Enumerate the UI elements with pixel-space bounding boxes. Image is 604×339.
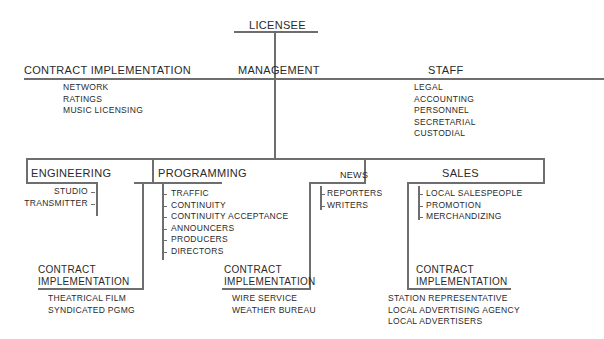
programming-list-line: [162, 184, 164, 260]
engineering-list-line: [96, 182, 98, 216]
list-item: WIRE SERVICE: [232, 293, 316, 305]
licensee-underline: [234, 31, 318, 33]
sales-contract-line: [407, 182, 409, 290]
management-line: [24, 78, 204, 80]
list-item: TRAFFIC: [171, 188, 288, 200]
staff-list: LEGAL ACCOUNTING PERSONNEL SECRETARIAL C…: [414, 82, 476, 140]
news-contract-line: [309, 182, 311, 290]
list-item: WRITERS: [327, 200, 382, 212]
tick: [163, 194, 167, 195]
list-item: LOCAL SALESPEOPLE: [426, 188, 522, 200]
programming-list: TRAFFIC CONTINUITY CONTINUITY ACCEPTANCE…: [171, 188, 288, 257]
tick: [163, 252, 167, 253]
sales-list: LOCAL SALESPEOPLE PROMOTION MERCHANDIZIN…: [426, 188, 522, 223]
engineering-left-edge: [26, 158, 28, 184]
list-item: THEATRICAL FILM: [48, 293, 135, 305]
sales-contract-title-line2: IMPLEMENTATION: [416, 277, 508, 287]
tick: [163, 229, 167, 230]
sales-title: SALES: [442, 168, 479, 179]
programming-contract-title-line2: IMPLEMENTATION: [38, 277, 130, 287]
tick: [91, 192, 95, 193]
list-item: MUSIC LICENSING: [63, 105, 143, 117]
list-item: MERCHANDIZING: [426, 211, 522, 223]
list-item: STATION REPRESENTATIVE: [388, 293, 520, 305]
tick: [419, 194, 423, 195]
list-item: LEGAL: [414, 82, 476, 94]
sales-contract-underline: [407, 288, 511, 290]
news-contract-title-line1: CONTRACT: [224, 265, 282, 275]
list-item: TRANSMITTER: [20, 198, 88, 210]
list-item: PROMOTION: [426, 200, 522, 212]
list-item: WEATHER BUREAU: [232, 305, 316, 317]
list-item: RATINGS: [63, 94, 143, 106]
list-item: CUSTODIAL: [414, 128, 476, 140]
list-item: SYNDICATED PGMG: [48, 305, 135, 317]
news-bottom: [309, 182, 366, 184]
programming-title: PROGRAMMING: [158, 168, 247, 179]
news-list: REPORTERS WRITERS: [327, 188, 382, 211]
tick: [163, 206, 167, 207]
list-item: PRODUCERS: [171, 234, 288, 246]
sales-bottom: [407, 182, 545, 184]
department-bus: [26, 158, 545, 160]
list-item: ACCOUNTING: [414, 94, 476, 106]
list-item: REPORTERS: [327, 188, 382, 200]
news-contract-underline: [222, 288, 311, 290]
news-contract-title-line2: IMPLEMENTATION: [224, 277, 316, 287]
management-line-right: [200, 78, 604, 80]
sales-list-line: [418, 186, 420, 220]
list-item: LOCAL ADVERTISING AGENCY: [388, 305, 520, 317]
management-title: MANAGEMENT: [238, 65, 320, 76]
list-item: DIRECTORS: [171, 246, 288, 258]
programming-contract-title-line1: CONTRACT: [38, 265, 96, 275]
engineering-title: ENGINEERING: [31, 168, 111, 179]
programming-contract-line: [142, 182, 144, 290]
list-item: LOCAL ADVERTISERS: [388, 316, 520, 328]
management-to-departments-connector: [274, 78, 276, 159]
tick: [419, 217, 423, 218]
management-contract-title: CONTRACT IMPLEMENTATION: [24, 65, 191, 76]
list-item: CONTINUITY: [171, 200, 288, 212]
tick: [321, 206, 325, 207]
engineering-bottom: [26, 182, 98, 184]
sales-right-edge: [543, 158, 545, 184]
sales-contract-list: STATION REPRESENTATIVE LOCAL ADVERTISING…: [388, 293, 520, 328]
tick: [321, 194, 325, 195]
tick: [163, 240, 167, 241]
staff-title: STAFF: [428, 65, 464, 76]
management-contract-list: NETWORK RATINGS MUSIC LICENSING: [63, 82, 143, 117]
tick: [163, 217, 167, 218]
news-contract-list: WIRE SERVICE WEATHER BUREAU: [232, 293, 316, 316]
programming-contract-list: THEATRICAL FILM SYNDICATED PGMG: [48, 293, 135, 316]
list-item: CONTINUITY ACCEPTANCE: [171, 211, 288, 223]
list-item: NETWORK: [63, 82, 143, 94]
news-title: NEWS: [340, 170, 368, 182]
sales-contract-title-line1: CONTRACT: [416, 265, 474, 275]
programming-contract-underline: [38, 288, 144, 290]
list-item: PERSONNEL: [414, 105, 476, 117]
programming-underline: [134, 182, 222, 184]
engineering-list: STUDIO TRANSMITTER: [20, 186, 88, 209]
list-item: STUDIO: [20, 186, 88, 198]
licensee-label: LICENSEE: [249, 20, 306, 31]
list-item: ANNOUNCERS: [171, 223, 288, 235]
tick: [91, 204, 95, 205]
list-item: SECRETARIAL: [414, 117, 476, 129]
tick: [419, 206, 423, 207]
programming-divider: [152, 158, 154, 184]
